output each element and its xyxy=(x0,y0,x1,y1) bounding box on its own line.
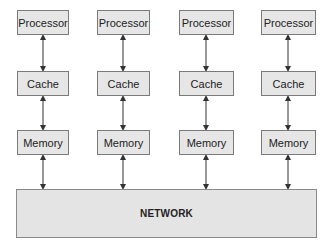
cache-box-3: Cache xyxy=(179,71,234,96)
memory-box-1: Memory xyxy=(17,130,69,155)
processor-box-2: Processor xyxy=(97,10,150,35)
memory-box-2: Memory xyxy=(97,130,150,155)
processor-box-3: Processor xyxy=(179,10,234,35)
cache-box-2: Cache xyxy=(97,71,150,96)
network-box: NETWORK xyxy=(16,189,317,238)
memory-box-3: Memory xyxy=(179,130,234,155)
cache-box-1: Cache xyxy=(17,71,69,96)
processor-box-4: Processor xyxy=(261,10,316,35)
cache-box-4: Cache xyxy=(261,71,316,96)
memory-box-4: Memory xyxy=(261,130,316,155)
processor-box-1: Processor xyxy=(17,10,69,35)
